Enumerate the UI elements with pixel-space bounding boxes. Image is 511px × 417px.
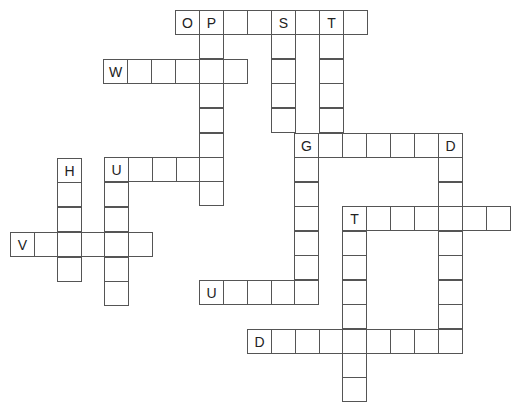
crossword-cell[interactable] xyxy=(414,329,439,354)
crossword-cell[interactable] xyxy=(199,133,224,158)
crossword-cell[interactable] xyxy=(342,353,367,378)
crossword-cell[interactable] xyxy=(342,329,367,354)
crossword-cell[interactable] xyxy=(271,108,296,133)
crossword-cell[interactable] xyxy=(271,280,296,305)
crossword-cell-start[interactable]: T xyxy=(342,206,367,231)
crossword-cell[interactable] xyxy=(438,255,463,280)
crossword-cell[interactable] xyxy=(342,255,367,280)
crossword-cell[interactable] xyxy=(104,182,129,207)
crossword-cell[interactable] xyxy=(342,377,367,402)
crossword-cell-start[interactable]: T xyxy=(319,10,344,35)
crossword-cell[interactable] xyxy=(294,280,319,305)
crossword-cell[interactable] xyxy=(438,157,463,182)
crossword-cell[interactable] xyxy=(57,207,82,232)
crossword-cell[interactable] xyxy=(319,34,344,59)
crossword-cell[interactable] xyxy=(390,206,415,231)
crossword-cell-start[interactable]: P xyxy=(199,10,224,35)
crossword-cell[interactable] xyxy=(57,232,82,257)
crossword-cell[interactable] xyxy=(342,280,367,305)
crossword-cell[interactable] xyxy=(175,59,200,84)
crossword-cell[interactable] xyxy=(414,206,439,231)
crossword-cell[interactable] xyxy=(176,157,201,182)
crossword-cell[interactable] xyxy=(152,157,177,182)
crossword-cell-start[interactable]: S xyxy=(271,10,296,35)
crossword-cell[interactable] xyxy=(128,157,153,182)
crossword-cell[interactable] xyxy=(81,232,106,257)
crossword-cell[interactable] xyxy=(295,10,320,35)
crossword-cell[interactable] xyxy=(366,133,391,158)
crossword-cell[interactable] xyxy=(319,108,344,133)
crossword-cell-start[interactable]: G xyxy=(294,133,319,158)
crossword-cell-start[interactable]: U xyxy=(199,280,224,305)
crossword-cell[interactable] xyxy=(390,133,415,158)
crossword-cell[interactable] xyxy=(295,329,320,354)
crossword-cell-start[interactable]: U xyxy=(104,157,129,182)
crossword-cell[interactable] xyxy=(342,133,367,158)
crossword-cell[interactable] xyxy=(271,34,296,59)
crossword-cell[interactable] xyxy=(342,231,367,256)
crossword-cell-start[interactable]: W xyxy=(103,59,128,84)
crossword-cell[interactable] xyxy=(271,83,296,108)
crossword-cell[interactable] xyxy=(199,181,224,206)
crossword-cell[interactable] xyxy=(104,232,129,257)
crossword-cell[interactable] xyxy=(294,182,319,207)
crossword-cell[interactable] xyxy=(271,59,296,84)
crossword-cell[interactable] xyxy=(294,255,319,280)
crossword-cell[interactable] xyxy=(223,59,248,84)
crossword-cell[interactable] xyxy=(57,257,82,282)
crossword-cell[interactable] xyxy=(319,59,344,84)
crossword-cell[interactable] xyxy=(271,329,296,354)
crossword-cell[interactable] xyxy=(294,157,319,182)
crossword-cell[interactable] xyxy=(319,329,344,354)
crossword-cell[interactable] xyxy=(151,59,176,84)
crossword-cell[interactable] xyxy=(247,280,272,305)
crossword-cell[interactable] xyxy=(104,281,129,306)
crossword-cell[interactable] xyxy=(247,10,272,35)
crossword-cell-start[interactable]: D xyxy=(247,329,272,354)
crossword-cell[interactable] xyxy=(438,304,463,329)
crossword-cell[interactable] xyxy=(199,157,224,182)
crossword-cell[interactable] xyxy=(486,206,511,231)
crossword-cell[interactable] xyxy=(127,59,152,84)
crossword-cell[interactable] xyxy=(366,329,391,354)
crossword-cell[interactable] xyxy=(104,257,129,282)
crossword-cell[interactable] xyxy=(128,232,153,257)
crossword-cell[interactable] xyxy=(199,83,224,108)
crossword-cell[interactable] xyxy=(318,133,343,158)
crossword-cell[interactable] xyxy=(390,329,415,354)
crossword-cell[interactable] xyxy=(366,206,391,231)
crossword-cell[interactable] xyxy=(438,280,463,305)
crossword-cell[interactable] xyxy=(223,10,248,35)
crossword-cell[interactable] xyxy=(438,329,463,354)
crossword-cell[interactable] xyxy=(343,10,368,35)
crossword-cell[interactable] xyxy=(199,59,224,84)
crossword-cell[interactable] xyxy=(104,207,129,232)
crossword-cell-start[interactable]: D xyxy=(438,133,463,158)
crossword-cell-start[interactable]: V xyxy=(10,232,35,257)
crossword-cell[interactable] xyxy=(438,182,463,207)
crossword-cell[interactable] xyxy=(319,83,344,108)
crossword-cell[interactable] xyxy=(342,304,367,329)
crossword-cell[interactable] xyxy=(438,231,463,256)
crossword-cell-start[interactable]: H xyxy=(57,158,82,183)
crossword-cell[interactable] xyxy=(414,133,439,158)
crossword-cell[interactable] xyxy=(57,182,82,207)
crossword-cell[interactable] xyxy=(294,206,319,231)
crossword-cell[interactable] xyxy=(223,280,248,305)
crossword-cell[interactable] xyxy=(34,232,59,257)
crossword-cell[interactable] xyxy=(199,34,224,59)
crossword-cell[interactable] xyxy=(294,231,319,256)
crossword-cell[interactable] xyxy=(438,206,463,231)
crossword-cell[interactable] xyxy=(199,108,224,133)
crossword-cell[interactable] xyxy=(462,206,487,231)
crossword-cell-start[interactable]: O xyxy=(175,10,200,35)
